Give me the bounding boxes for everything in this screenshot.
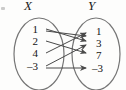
set-y-element-4: –3 — [92, 62, 116, 74]
set-y-label: Y — [88, 0, 95, 14]
set-x-element-1: 1 — [22, 23, 38, 35]
arrow-group — [46, 29, 86, 68]
set-y-element-2: 3 — [96, 37, 116, 49]
set-x-element-2: 2 — [22, 35, 38, 47]
arrow-neg3-to-3 — [46, 45, 86, 66]
set-y-element-3: 7 — [96, 49, 116, 61]
set-x-element-3: 4 — [22, 47, 38, 59]
set-y-element-1: 1 — [96, 25, 116, 37]
mapping-diagram: X Y 1 2 4 –3 1 3 7 –3 — [0, 0, 126, 90]
set-x-label: X — [24, 0, 32, 14]
set-x-element-4: –3 — [18, 60, 38, 72]
